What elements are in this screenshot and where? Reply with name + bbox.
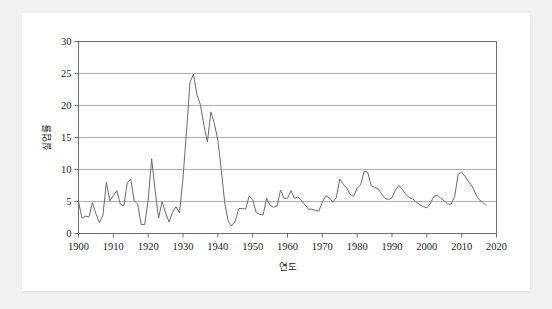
x-tick-label-1900: 1900 bbox=[68, 241, 89, 252]
x-axis: 1900191019201930194019501960197019801990… bbox=[68, 234, 507, 252]
y-tick-label-0: 0 bbox=[66, 228, 71, 239]
figure-page: 0510152025301900191019201930194019501960… bbox=[0, 0, 552, 309]
x-tick-label-1980: 1980 bbox=[347, 241, 368, 252]
x-tick-label-1920: 1920 bbox=[138, 241, 159, 252]
x-tick-label-1910: 1910 bbox=[103, 241, 124, 252]
x-tick-label-1960: 1960 bbox=[277, 241, 298, 252]
gridlines bbox=[79, 42, 497, 202]
y-tick-label-30: 30 bbox=[61, 36, 72, 47]
x-tick-label-1950: 1950 bbox=[242, 241, 263, 252]
unemployment-line-chart: 0510152025301900191019201930194019501960… bbox=[0, 0, 552, 309]
x-tick-label-1990: 1990 bbox=[382, 241, 403, 252]
data-line-unemployment-rate bbox=[79, 74, 487, 226]
x-tick-label-2020: 2020 bbox=[486, 241, 507, 252]
y-tick-label-20: 20 bbox=[61, 100, 72, 111]
y-tick-label-25: 25 bbox=[61, 68, 72, 79]
x-tick-label-1940: 1940 bbox=[207, 241, 228, 252]
x-tick-label-2000: 2000 bbox=[416, 241, 437, 252]
x-tick-label-1930: 1930 bbox=[173, 241, 194, 252]
x-tick-label-2010: 2010 bbox=[451, 241, 472, 252]
y-tick-label-10: 10 bbox=[61, 164, 72, 175]
x-tick-label-1970: 1970 bbox=[312, 241, 333, 252]
y-tick-label-15: 15 bbox=[61, 132, 72, 143]
y-tick-label-5: 5 bbox=[66, 196, 71, 207]
x-axis-title: 연도 bbox=[279, 261, 297, 272]
y-axis: 051015202530 bbox=[61, 36, 79, 239]
y-axis-title: 실업률 bbox=[41, 124, 52, 151]
